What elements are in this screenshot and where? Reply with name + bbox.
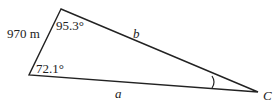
vertex-c-label: C <box>263 88 272 102</box>
angle-left-label: 72.1° <box>36 61 64 76</box>
angle-c-arc <box>212 76 214 88</box>
side-a-label: a <box>115 86 122 101</box>
side-b-label: b <box>133 26 140 41</box>
side-left-label: 970 m <box>7 26 40 41</box>
angle-top-label: 95.3° <box>56 18 84 33</box>
triangle-diagram: 970 m 95.3° 72.1° b a C <box>0 0 279 102</box>
